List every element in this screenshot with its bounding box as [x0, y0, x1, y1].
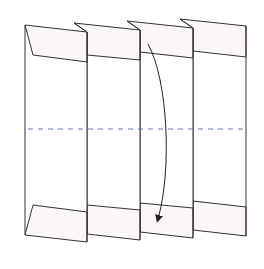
bottom-flap-3 — [140, 203, 193, 238]
panel-1 — [25, 25, 87, 242]
bottom-flap-2 — [87, 205, 140, 240]
diagram-canvas — [0, 0, 264, 269]
fold-diagram — [0, 0, 264, 269]
bottom-flap-1 — [25, 205, 87, 242]
bottom-flap-4 — [193, 201, 246, 236]
